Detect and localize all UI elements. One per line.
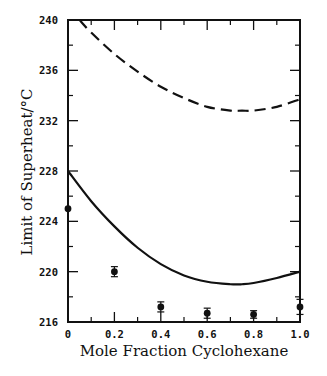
- x-tick-label: 1.0: [291, 328, 310, 340]
- y-tick-label: 240: [39, 14, 58, 26]
- x-axis-ticks: 00.20.40.60.81.0: [65, 20, 310, 340]
- data-point: [204, 310, 211, 317]
- data-point: [297, 304, 304, 311]
- series-group: [65, 20, 304, 318]
- y-tick-label: 220: [39, 266, 58, 278]
- y-tick-label: 228: [39, 165, 58, 177]
- x-tick-label: 0.8: [244, 328, 263, 340]
- x-tick-label: 0.6: [198, 328, 217, 340]
- data-point: [65, 205, 72, 212]
- chart: 216220224228232236240 00.20.40.60.81.0 M…: [0, 0, 327, 376]
- y-axis-title: Limit of Superheat/°C: [18, 88, 36, 255]
- y-tick-label: 232: [39, 115, 58, 127]
- y-tick-label: 236: [39, 64, 58, 76]
- data-point: [250, 311, 257, 318]
- data-point: [111, 268, 118, 275]
- data-point: [157, 304, 164, 311]
- x-tick-label: 0.4: [151, 328, 170, 340]
- y-tick-label: 216: [39, 316, 58, 328]
- x-tick-label: 0.2: [105, 328, 124, 340]
- dashed-curve: [80, 20, 300, 111]
- y-tick-label: 224: [39, 215, 58, 227]
- x-tick-label: 0: [65, 328, 71, 340]
- solid-curve: [68, 171, 300, 284]
- x-axis-title: Mole Fraction Cyclohexane: [80, 342, 289, 360]
- plot-border: [68, 20, 300, 322]
- plot-frame: [68, 20, 300, 322]
